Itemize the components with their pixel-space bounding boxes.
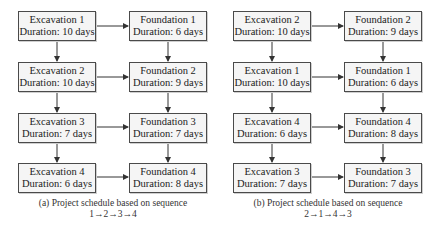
node-name: Foundation 3 — [140, 116, 196, 129]
node-excavation: Excavation 3 Duration: 7 days — [233, 163, 311, 193]
node-excavation: Excavation 1 Duration: 10 days — [233, 62, 311, 92]
node-name: Foundation 1 — [140, 14, 196, 27]
node-duration: Duration: 7 days — [348, 178, 418, 191]
node-excavation: Excavation 4 Duration: 6 days — [18, 163, 96, 193]
node-duration: Duration: 6 days — [22, 178, 92, 191]
node-excavation: Excavation 3 Duration: 7 days — [18, 113, 96, 143]
node-name: Excavation 2 — [29, 65, 84, 78]
node-duration: Duration: 10 days — [234, 77, 309, 90]
schedule-panel-a: Excavation 1 Duration: 10 days Foundatio… — [0, 0, 220, 232]
node-duration: Duration: 9 days — [133, 77, 203, 90]
node-name: Foundation 4 — [355, 116, 411, 129]
node-name: Excavation 4 — [244, 116, 299, 129]
node-name: Excavation 1 — [244, 65, 299, 78]
schedule-panel-b: Excavation 2 Duration: 10 days Foundatio… — [215, 0, 435, 232]
node-foundation: Foundation 1 Duration: 6 days — [129, 11, 207, 41]
node-name: Excavation 3 — [244, 166, 299, 179]
node-excavation: Excavation 4 Duration: 6 days — [233, 113, 311, 143]
node-duration: Duration: 8 days — [348, 128, 418, 141]
node-duration: Duration: 9 days — [348, 26, 418, 39]
node-duration: Duration: 6 days — [237, 128, 307, 141]
node-foundation: Foundation 2 Duration: 9 days — [129, 62, 207, 92]
node-excavation: Excavation 1 Duration: 10 days — [18, 11, 96, 41]
node-duration: Duration: 7 days — [133, 128, 203, 141]
node-foundation: Foundation 4 Duration: 8 days — [129, 163, 207, 193]
node-excavation: Excavation 2 Duration: 10 days — [233, 11, 311, 41]
node-excavation: Excavation 2 Duration: 10 days — [18, 62, 96, 92]
caption-sequence: 2→1→4→3 — [218, 209, 438, 220]
node-name: Foundation 4 — [140, 166, 196, 179]
node-name: Foundation 3 — [355, 166, 411, 179]
caption-title: (a) Project schedule based on sequence — [3, 198, 223, 209]
node-duration: Duration: 8 days — [133, 178, 203, 191]
node-name: Foundation 2 — [355, 14, 411, 27]
node-name: Excavation 3 — [29, 116, 84, 129]
caption-panel-b: (b) Project schedule based on sequence 2… — [218, 198, 438, 220]
node-name: Foundation 2 — [140, 65, 196, 78]
node-duration: Duration: 10 days — [19, 77, 94, 90]
node-foundation: Foundation 3 Duration: 7 days — [344, 163, 422, 193]
node-duration: Duration: 6 days — [348, 77, 418, 90]
node-duration: Duration: 7 days — [237, 178, 307, 191]
node-name: Excavation 1 — [29, 14, 84, 27]
node-name: Excavation 2 — [244, 14, 299, 27]
caption-title: (b) Project schedule based on sequence — [218, 198, 438, 209]
caption-sequence: 1→2→3→4 — [3, 209, 223, 220]
node-foundation: Foundation 3 Duration: 7 days — [129, 113, 207, 143]
node-foundation: Foundation 1 Duration: 6 days — [344, 62, 422, 92]
node-duration: Duration: 10 days — [234, 26, 309, 39]
node-foundation: Foundation 4 Duration: 8 days — [344, 113, 422, 143]
node-foundation: Foundation 2 Duration: 9 days — [344, 11, 422, 41]
node-name: Excavation 4 — [29, 166, 84, 179]
node-duration: Duration: 7 days — [22, 128, 92, 141]
node-duration: Duration: 6 days — [133, 26, 203, 39]
caption-panel-a: (a) Project schedule based on sequence 1… — [3, 198, 223, 220]
node-duration: Duration: 10 days — [19, 26, 94, 39]
node-name: Foundation 1 — [355, 65, 411, 78]
